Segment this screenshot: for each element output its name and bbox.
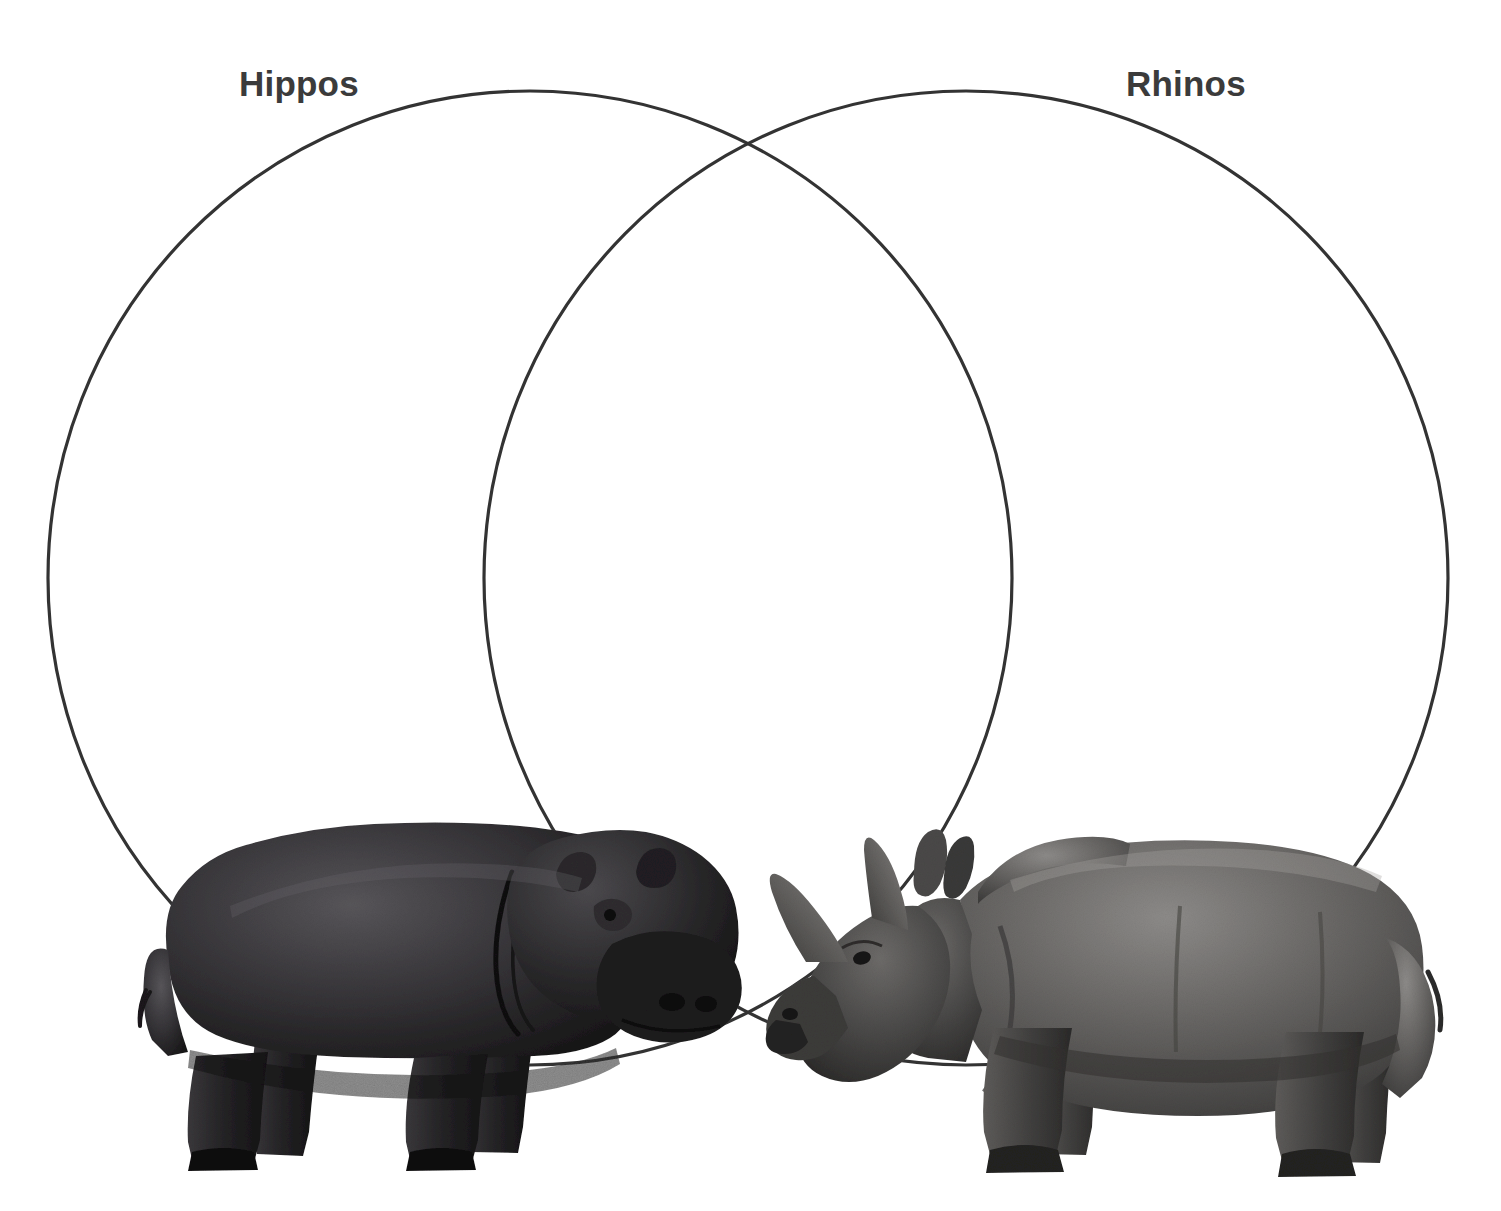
rhino-horn-front: [770, 874, 848, 962]
rhino-horn-rear: [864, 838, 908, 930]
venn-circles-svg: [0, 0, 1501, 1211]
hippo-nostril-far: [695, 996, 717, 1012]
hippo-nostril-near: [659, 993, 685, 1011]
venn-diagram-canvas: Hippos Rhinos: [0, 0, 1501, 1211]
venn-label-hippos[interactable]: Hippos: [239, 66, 359, 101]
hippo-muzzle: [597, 931, 742, 1042]
rhino-hoof-fore-near: [986, 1145, 1064, 1173]
hippo-illustration: [140, 822, 742, 1171]
venn-label-rhinos[interactable]: Rhinos: [1126, 66, 1246, 101]
rhino-nostril: [782, 1008, 798, 1020]
rhino-hoof-hind-near: [1278, 1149, 1356, 1177]
hippo-hoof-fore-near: [406, 1148, 476, 1171]
rhino-ear-near: [914, 829, 948, 896]
hippo-eye: [604, 909, 616, 921]
rhino-ear-far: [943, 836, 974, 898]
rhino-illustration: [766, 829, 1441, 1177]
hippo-hoof-hind-near: [188, 1148, 258, 1171]
